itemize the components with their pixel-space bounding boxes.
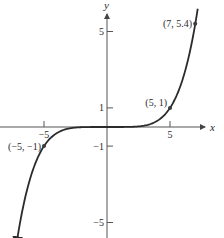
data-point — [168, 106, 172, 110]
x-axis-label: x — [209, 121, 215, 133]
y-tick-label: −1 — [93, 141, 104, 152]
y-axis-label: y — [103, 0, 109, 11]
point-label: (−5, −1) — [8, 141, 41, 153]
point-label: (7, 5.4) — [163, 18, 192, 30]
plot-area: x y −5551−1−5 (−5, −1)(5, 1)(7, 5.4) — [0, 0, 224, 238]
x-tick-label: −5 — [39, 129, 50, 140]
x-tick-label: 5 — [168, 129, 173, 140]
data-point — [42, 144, 46, 148]
data-point — [193, 22, 197, 26]
y-tick-label: 1 — [99, 102, 104, 113]
y-tick-label: −5 — [93, 217, 104, 228]
y-tick-label: 5 — [99, 26, 104, 37]
chart-svg: x y −5551−1−5 (−5, −1)(5, 1)(7, 5.4) — [0, 0, 224, 238]
point-label: (5, 1) — [145, 97, 167, 109]
